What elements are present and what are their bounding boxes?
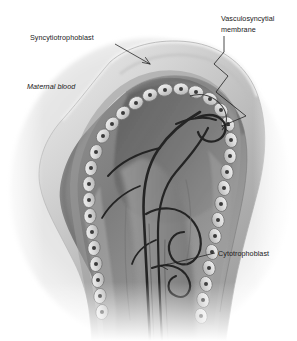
label-vasculosyncytial-membrane-line-2: membrane [221,25,256,34]
label-syncytiotrophoblast: Syncytiotrophoblast [30,33,94,42]
cytotrophoblast-cell [83,192,96,208]
illustration-figure: Syncytiotrophoblast Maternal blood Vascu… [0,0,297,341]
label-cytotrophoblast: Cytotrophoblast [218,249,269,258]
cytotrophoblast-cell [173,83,189,96]
villus-illustration-canvas: Syncytiotrophoblast Maternal blood Vascu… [0,0,297,341]
label-vasculosyncytial-membrane-line-1: Vasculosyncytial [221,14,275,23]
label-maternal-blood: Maternal blood [27,82,76,91]
